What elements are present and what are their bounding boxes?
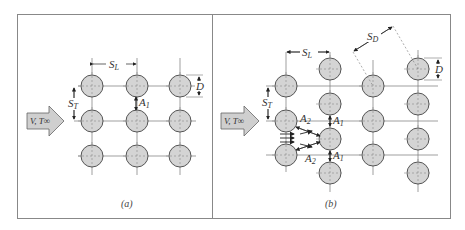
a1-label-b-upper: A1 (332, 114, 344, 128)
tube-bank-diagram: V, T∞ SL ST A1 D (a) (0, 0, 465, 230)
flow-label-b: V, T∞ (224, 116, 244, 126)
panel-a: V, T∞ SL ST A1 D (a) (27, 58, 204, 210)
flow-arrow-a: V, T∞ (27, 106, 64, 136)
caption-b: (b) (325, 198, 337, 210)
a1-label-a: A1 (138, 96, 150, 110)
a1-label-b-lower: A1 (332, 149, 344, 163)
panel-b: V, T∞ SL ST SD D A1 A1 (221, 26, 443, 210)
a2-label-b-lower: A2 (304, 152, 316, 166)
a2-label-b-upper: A2 (299, 112, 311, 126)
tubes-a (78, 72, 194, 170)
d-label-a: D (195, 80, 204, 92)
d-label-b: D (434, 63, 443, 75)
flow-arrow-b: V, T∞ (221, 106, 259, 136)
caption-a: (a) (121, 198, 133, 210)
flow-label-a: V, T∞ (30, 116, 50, 126)
